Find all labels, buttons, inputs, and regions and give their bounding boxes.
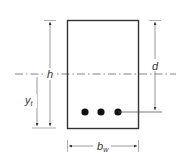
rebar-1 xyxy=(81,108,88,115)
reinforcement-bars xyxy=(81,108,121,115)
d-label: d xyxy=(152,60,159,72)
bw-dimension: bw xyxy=(68,140,139,153)
bw-label: bw xyxy=(97,140,109,153)
yt-dimension: yt xyxy=(23,77,37,126)
h-label: h xyxy=(47,68,53,80)
rebar-2 xyxy=(97,108,104,115)
beam-section-diagram: h yt d bw xyxy=(0,0,183,162)
d-dimension: d xyxy=(149,21,161,111)
